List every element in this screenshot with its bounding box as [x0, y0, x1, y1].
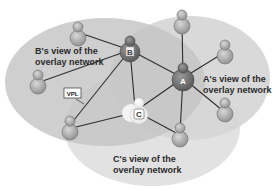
node-a-label: A	[180, 77, 186, 86]
vpl-label: VPL	[67, 91, 79, 97]
node-b-label: B	[127, 48, 133, 57]
c-view-label-line1: C's view of the	[113, 154, 176, 164]
b-view-label-line1: B's view of the	[35, 46, 98, 56]
a-view-label-line1: A's view of the	[203, 74, 266, 84]
a-view-label-line2: overlay network	[203, 85, 273, 95]
overlay-network-diagram: B A C VPL B's view of the overlay networ…	[0, 0, 275, 190]
c-view-label-line2: overlay network	[113, 165, 183, 175]
b-view-label-line2: overlay network	[35, 57, 105, 67]
node-c-label: C	[136, 110, 142, 119]
peer-node-top-center	[174, 10, 190, 34]
